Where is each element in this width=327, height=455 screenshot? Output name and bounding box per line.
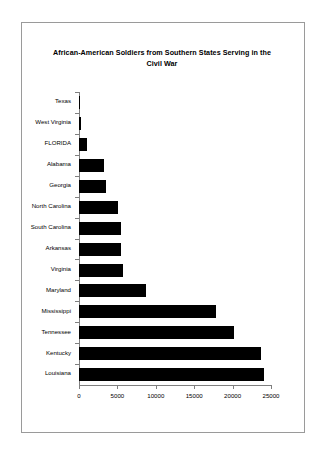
bar-row: Arkansas <box>79 239 271 260</box>
bar <box>79 305 216 318</box>
y-axis-tick <box>75 239 79 240</box>
x-axis-tick-label: 5000 <box>111 392 125 399</box>
y-axis-tick <box>75 280 79 281</box>
bar-row: Alabama <box>79 155 271 176</box>
chart-page: African-American Soldiers from Southern … <box>0 0 327 455</box>
y-axis-tick <box>75 322 79 323</box>
x-axis-tick <box>233 385 234 389</box>
y-axis-label: Maryland <box>46 286 71 293</box>
x-axis-line <box>79 385 271 386</box>
y-axis-tick <box>75 301 79 302</box>
y-axis-label: West Virginia <box>35 118 71 125</box>
x-axis-tick <box>271 385 272 389</box>
x-axis-tick <box>156 385 157 389</box>
bar-row: South Carolina <box>79 218 271 239</box>
chart-title: African-American Soldiers from Southern … <box>46 48 278 69</box>
bar <box>79 138 87 151</box>
bar-row: West Virginia <box>79 113 271 134</box>
bar <box>79 284 146 297</box>
bar-row: Tennessee <box>79 322 271 343</box>
bar <box>79 243 121 256</box>
y-axis-tick <box>75 134 79 135</box>
y-axis-label: Louisiana <box>45 369 71 376</box>
bar-row: FLORIDA <box>79 134 271 155</box>
bar <box>79 180 106 193</box>
y-axis-tick <box>75 113 79 114</box>
y-axis-label: Arkansas <box>46 244 71 251</box>
y-axis-label: Tennessee <box>42 328 71 335</box>
bar-row: Georgia <box>79 176 271 197</box>
bar <box>79 159 104 172</box>
bar-row: Mississippi <box>79 301 271 322</box>
bar <box>79 222 121 235</box>
y-axis-label: FLORIDA <box>45 139 71 146</box>
bar <box>79 368 264 381</box>
y-axis-label: Georgia <box>49 181 71 188</box>
bar <box>79 117 81 130</box>
y-axis-tick <box>75 176 79 177</box>
bar-row: Virginia <box>79 259 271 280</box>
x-axis-tick-label: 20000 <box>224 392 241 399</box>
y-axis-label: Kentucky <box>46 349 71 356</box>
y-axis-label: South Carolina <box>31 223 71 230</box>
bar-row: Louisiana <box>79 364 271 385</box>
y-axis-tick <box>75 218 79 219</box>
y-axis-tick <box>75 259 79 260</box>
y-axis-label: Texas <box>55 97 71 104</box>
y-axis-label: Virginia <box>51 265 71 272</box>
plot-area: Texas West Virginia FLORIDA Alabama Geor… <box>79 92 271 385</box>
bar <box>79 347 261 360</box>
bar-row: Kentucky <box>79 343 271 364</box>
bar-row: North Carolina <box>79 197 271 218</box>
y-axis-label: Mississippi <box>42 307 71 314</box>
bar <box>79 201 118 214</box>
x-axis-tick <box>194 385 195 389</box>
x-axis-tick <box>79 385 80 389</box>
x-axis-tick <box>117 385 118 389</box>
x-axis-tick-label: 15000 <box>186 392 203 399</box>
x-axis-tick-label: 10000 <box>147 392 164 399</box>
y-axis-tick <box>75 92 79 93</box>
y-axis-label: North Carolina <box>32 202 71 209</box>
bar-row: Maryland <box>79 280 271 301</box>
bar <box>79 326 234 339</box>
x-axis-tick-label: 25000 <box>263 392 280 399</box>
y-axis-tick <box>75 343 79 344</box>
y-axis-tick <box>75 155 79 156</box>
y-axis-tick <box>75 364 79 365</box>
x-axis-tick-label: 0 <box>77 392 80 399</box>
bar-row: Texas <box>79 92 271 113</box>
y-axis-tick <box>75 197 79 198</box>
bar <box>79 264 123 277</box>
y-axis-label: Alabama <box>47 160 71 167</box>
